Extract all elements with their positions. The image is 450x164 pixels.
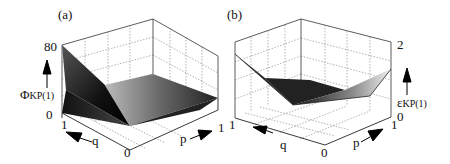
zlabel-b: εKP(1): [397, 96, 427, 109]
q-label-a: q: [92, 134, 99, 147]
q-label-b: q: [280, 138, 287, 151]
p-tick-b: 1: [391, 118, 398, 131]
zlabel-a: ΦKP(1): [20, 88, 54, 101]
ztick-min-a: 0: [46, 108, 53, 121]
plot-a-graphic: [0, 0, 225, 164]
plot-b-graphic: [225, 0, 450, 164]
p-tick-a: 1: [218, 121, 225, 134]
ztick-max-a: 80: [44, 40, 57, 53]
origin-tick-a: 0: [124, 146, 131, 159]
q-tick-a: 1: [61, 118, 68, 131]
p-label-a: p: [180, 132, 187, 145]
panel-b-label: (b): [227, 8, 242, 21]
zlabel-a-main: Φ: [20, 87, 30, 102]
panel-a-label: (a): [58, 8, 72, 21]
surface-plot-b: (b) 2 0 εKP(1) 1 q 0 p 1: [225, 0, 450, 164]
p-label-b: p: [353, 136, 360, 149]
zlabel-a-sub: KP(1): [30, 90, 54, 101]
ztick-max-b: 2: [397, 38, 404, 51]
zlabel-b-sub: KP(1): [402, 98, 426, 109]
origin-tick-b: 0: [321, 146, 328, 159]
surface-plot-a: (a) 80 0 ΦKP(1) 1 q 0 p 1: [0, 0, 225, 164]
ztick-min-b: 0: [397, 110, 404, 123]
q-tick-b: 1: [229, 118, 236, 131]
